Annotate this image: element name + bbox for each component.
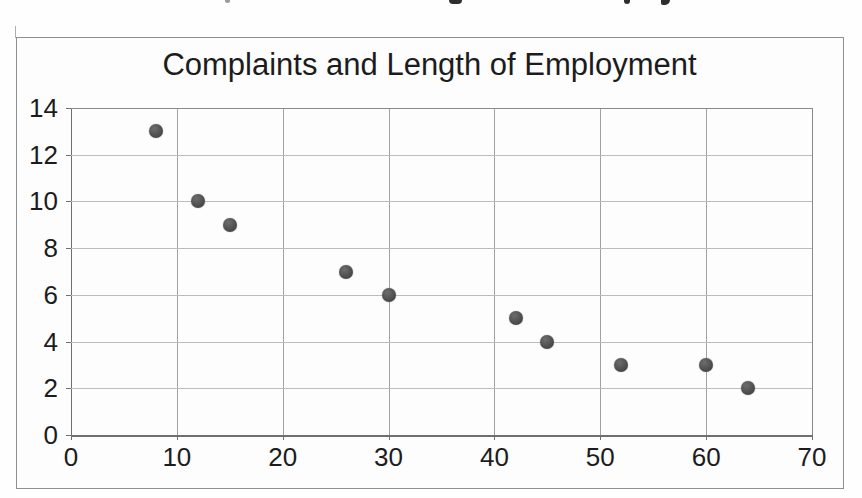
data-point — [382, 288, 396, 302]
y-axis-tick — [66, 388, 71, 389]
y-tick-label: 4 — [12, 327, 58, 357]
cutoff-text-fragment — [624, 0, 630, 4]
y-tick-label: 12 — [12, 140, 58, 170]
y-tick-label: 10 — [12, 186, 58, 216]
gridline-horizontal — [71, 155, 812, 156]
data-point — [699, 358, 713, 372]
cutoff-text-fragment — [449, 0, 462, 4]
y-axis-tick — [66, 201, 71, 202]
figure-border-box — [16, 37, 844, 489]
y-axis-tick — [66, 435, 71, 436]
gridline-vertical — [389, 108, 390, 435]
gridline-vertical — [177, 108, 178, 435]
y-axis-tick — [66, 342, 71, 343]
y-tick-label: 0 — [12, 420, 58, 450]
gridline-horizontal — [71, 201, 812, 202]
y-axis-tick — [66, 108, 71, 109]
x-tick-label: 20 — [253, 442, 313, 473]
gridline-vertical — [494, 108, 495, 435]
gridline-horizontal — [71, 108, 812, 109]
data-point — [509, 311, 523, 325]
data-point — [223, 218, 237, 232]
gridline-vertical — [283, 108, 284, 435]
chart-title: Complaints and Length of Employment — [16, 47, 843, 83]
x-tick-label: 30 — [359, 442, 419, 473]
gridline-vertical — [812, 108, 813, 435]
y-tick-label: 6 — [12, 280, 58, 310]
y-tick-label: 2 — [12, 373, 58, 403]
x-tick-label: 60 — [676, 442, 736, 473]
data-point — [339, 265, 353, 279]
gridline-vertical — [600, 108, 601, 435]
gridline-horizontal — [71, 388, 812, 389]
cutoff-text-fragment — [661, 0, 670, 5]
gridline-horizontal — [71, 435, 812, 437]
y-axis-tick — [66, 295, 71, 296]
y-axis-tick — [66, 155, 71, 156]
y-axis-tick — [66, 248, 71, 249]
data-point — [149, 124, 163, 138]
x-tick-label: 70 — [782, 442, 842, 473]
gridline-horizontal — [71, 342, 812, 343]
y-tick-label: 8 — [12, 233, 58, 263]
x-axis-tick — [812, 435, 813, 440]
data-point — [540, 335, 554, 349]
cutoff-text-fragment — [225, 0, 230, 3]
gridline-horizontal — [71, 248, 812, 249]
x-tick-label: 50 — [570, 442, 630, 473]
x-tick-label: 40 — [464, 442, 524, 473]
x-tick-label: 10 — [147, 442, 207, 473]
y-tick-label: 14 — [12, 93, 58, 123]
scanned-chart-figure: Complaints and Length of Employment 0102… — [0, 0, 862, 498]
gridline-horizontal — [71, 295, 812, 296]
gridline-vertical — [71, 108, 72, 435]
gridline-vertical — [706, 108, 707, 435]
